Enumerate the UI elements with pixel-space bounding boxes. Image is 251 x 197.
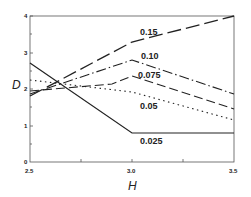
y-tick-1: 1 — [24, 123, 28, 129]
line-chart: 4 3 2 1 0 2.5 3.0 3.5 H D 0.15 0.10 0.07… — [0, 0, 251, 197]
x-axis-title: H — [128, 179, 137, 193]
y-tick-0: 0 — [24, 159, 28, 165]
y-tick-3: 3 — [24, 50, 28, 56]
series-0.075-line — [30, 76, 234, 109]
plot-frame — [30, 16, 234, 162]
y-axis-title: D — [12, 78, 21, 92]
y-tick-2: 2 — [24, 86, 28, 92]
y-tick-4: 4 — [24, 13, 28, 19]
series-0.05-line — [30, 80, 234, 120]
x-tick-3.0: 3.0 — [127, 168, 136, 174]
series-0.025-line — [30, 63, 234, 133]
x-axis — [81, 159, 183, 162]
x-tick-2.5: 2.5 — [25, 168, 34, 174]
series-label-0.10: 0.10 — [141, 51, 159, 61]
x-tick-3.5: 3.5 — [229, 168, 238, 174]
series-label-0.075: 0.075 — [138, 70, 161, 80]
series-label-0.025: 0.025 — [140, 136, 163, 146]
series-label-0.15: 0.15 — [140, 27, 158, 37]
series-label-0.05: 0.05 — [140, 101, 158, 111]
